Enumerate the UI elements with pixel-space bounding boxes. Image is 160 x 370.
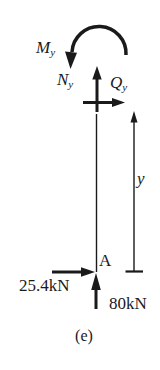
y-dimension-label: y: [135, 169, 145, 188]
vertical-load-label: 80kN: [109, 294, 147, 313]
moment-arrowhead-icon: [65, 52, 77, 70]
vertical-load-arrow: [91, 273, 101, 309]
vertical-load-arrowhead-icon: [91, 273, 101, 290]
point-a-label: A: [99, 251, 112, 270]
horizontal-load-arrowhead-icon: [81, 267, 95, 277]
horizontal-load-label: 25.4kN: [19, 276, 70, 295]
shear-force-arrow: [83, 98, 125, 107]
shear-force-label: Qy: [110, 73, 127, 93]
moment-arc: [72, 26, 126, 55]
free-body-diagram: My Ny Qy y A 25.4kN 80kN (e): [0, 0, 160, 370]
y-dimension-arrow: [126, 111, 144, 272]
figure-caption: (e): [75, 327, 93, 345]
shear-force-arrowhead-icon: [112, 98, 125, 107]
normal-force-arrow: [92, 66, 101, 112]
moment-arrow: [65, 26, 126, 69]
moment-label: My: [35, 38, 55, 58]
normal-force-label: Ny: [56, 70, 73, 90]
normal-force-arrowhead-icon: [92, 66, 101, 80]
y-dimension-arrowhead-icon: [131, 111, 138, 123]
